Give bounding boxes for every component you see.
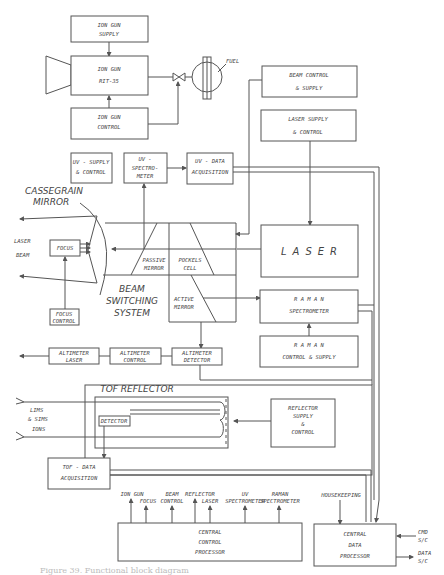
svg-text:CENTRAL: CENTRAL bbox=[198, 529, 221, 535]
ions-label-3: IONS bbox=[32, 426, 46, 432]
ions-label: LIMS bbox=[30, 407, 44, 413]
svg-text:DATA: DATA bbox=[347, 542, 361, 548]
svg-text:BEAM: BEAM bbox=[165, 491, 179, 497]
figure-caption: Figure 39. Functional block diagram bbox=[40, 566, 189, 575]
svg-text:REFLECTOR: REFLECTOR bbox=[185, 491, 215, 497]
svg-text:ACQUISITION: ACQUISITION bbox=[60, 475, 98, 481]
altimeter-laser-box: ALTIMETER LASER bbox=[49, 348, 99, 364]
ion-gun-control-box: ION GUN CONTROL bbox=[71, 108, 148, 139]
svg-text:ALTIMETER: ALTIMETER bbox=[119, 350, 150, 356]
svg-text:CONTROL: CONTROL bbox=[198, 539, 221, 545]
svg-text:SYSTEM: SYSTEM bbox=[114, 308, 150, 318]
svg-text:CONTROL & SUPPLY: CONTROL & SUPPLY bbox=[283, 354, 337, 360]
svg-text:FUEL: FUEL bbox=[226, 58, 239, 64]
ccp-input-labels: ION GUN FOCUS BEAM CONTROL REFLECTOR LAS… bbox=[120, 491, 300, 504]
svg-text:PROCESSOR: PROCESSOR bbox=[340, 553, 370, 559]
fuel-tank-icon: FUEL bbox=[192, 57, 239, 99]
uv-spectrometer-box: UV - SPECTRO- METER bbox=[124, 153, 167, 183]
beam-control-supply-box: BEAM CONTROL & SUPPLY bbox=[262, 66, 357, 97]
svg-text:BEAM: BEAM bbox=[119, 284, 145, 294]
data-sc-label: DATA bbox=[417, 550, 431, 556]
svg-text:REFLECTOR: REFLECTOR bbox=[288, 405, 318, 411]
svg-text:PASSIVE: PASSIVE bbox=[142, 257, 166, 263]
central-control-processor-box: CENTRAL CONTROL PROCESSOR bbox=[118, 523, 302, 561]
svg-text:CONTROL: CONTROL bbox=[291, 429, 314, 435]
svg-text:METER: METER bbox=[136, 173, 154, 179]
laser-beam-label: LASER bbox=[14, 238, 31, 244]
svg-text:CELL: CELL bbox=[183, 265, 196, 271]
svg-text:CONTROL: CONTROL bbox=[123, 357, 146, 363]
svg-text:UV - DATA: UV - DATA bbox=[195, 158, 225, 164]
svg-text:LASER: LASER bbox=[202, 498, 219, 504]
laser-supply-control-box: LASER SUPPLY & CONTROL bbox=[261, 110, 356, 141]
svg-text:&: & bbox=[300, 421, 305, 427]
altimeter-detector-box: ALTIMETER DETECTOR bbox=[172, 348, 222, 365]
detector-box: DETECTOR bbox=[99, 416, 130, 426]
altimeter-control-box: ALTIMETER CONTROL bbox=[110, 348, 161, 364]
ions-label-2: & SIMS bbox=[27, 416, 49, 422]
svg-text:ION GUN: ION GUN bbox=[97, 66, 121, 72]
svg-text:R A M A N: R A M A N bbox=[294, 342, 324, 348]
raman-control-supply-box: R A M A N CONTROL & SUPPLY bbox=[260, 336, 358, 367]
reflector-supply-control-box: REFLECTOR SUPPLY & CONTROL bbox=[271, 399, 335, 447]
svg-text:ACQUISITION: ACQUISITION bbox=[191, 169, 229, 175]
svg-text:SUPPLY: SUPPLY bbox=[99, 31, 120, 37]
svg-text:& SUPPLY: & SUPPLY bbox=[295, 85, 323, 91]
svg-text:CONTROL: CONTROL bbox=[160, 498, 183, 504]
svg-text:ION GUN: ION GUN bbox=[120, 491, 144, 497]
svg-text:ACTIVE: ACTIVE bbox=[173, 296, 195, 302]
raman-spectrometer-box: R A M A N SPECTROMETER bbox=[260, 290, 358, 323]
svg-text:BEAM CONTROL: BEAM CONTROL bbox=[289, 72, 329, 78]
svg-text:UV: UV bbox=[242, 491, 249, 497]
svg-text:CONTROL: CONTROL bbox=[97, 124, 120, 130]
data-sc-label-2: S/C bbox=[418, 558, 429, 564]
laser-box: LASER bbox=[261, 225, 358, 277]
svg-text:SPECTRO-: SPECTRO- bbox=[132, 165, 159, 171]
svg-text:FOCUS: FOCUS bbox=[57, 245, 74, 251]
svg-text:ION GUN: ION GUN bbox=[97, 22, 121, 28]
svg-text:POCKELS: POCKELS bbox=[178, 257, 202, 263]
svg-text:FOCUS: FOCUS bbox=[56, 311, 73, 317]
svg-text:ION GUN: ION GUN bbox=[97, 114, 121, 120]
svg-text:UV - SUPPLY: UV - SUPPLY bbox=[73, 159, 110, 165]
svg-text:CONTROL: CONTROL bbox=[52, 318, 75, 324]
svg-text:CENTRAL: CENTRAL bbox=[343, 531, 366, 537]
laser-beam-label-2: BEAM bbox=[16, 252, 30, 258]
svg-text:R A M A N: R A M A N bbox=[294, 296, 324, 302]
svg-text:MIRROR: MIRROR bbox=[143, 265, 165, 271]
svg-text:SWITCHING: SWITCHING bbox=[106, 296, 158, 306]
svg-text:SUPPLY: SUPPLY bbox=[293, 413, 314, 419]
ion-gun-supply-box: ION GUN SUPPLY bbox=[71, 16, 148, 42]
svg-text:LASER: LASER bbox=[66, 357, 83, 363]
central-data-processor-box: CENTRAL DATA PROCESSOR bbox=[314, 524, 396, 566]
beam-switching-system: PASSIVE MIRROR POCKELS CELL ACTIVE MIRRO… bbox=[103, 184, 236, 322]
svg-text:TOF - DATA: TOF - DATA bbox=[62, 464, 95, 470]
cmd-sc-label-2: S/C bbox=[418, 537, 429, 543]
focus-box: FOCUS bbox=[50, 240, 90, 256]
svg-text:SPECTROMETER: SPECTROMETER bbox=[260, 498, 300, 504]
svg-text:& CONTROL: & CONTROL bbox=[292, 129, 323, 135]
svg-text:FOCUS: FOCUS bbox=[140, 498, 157, 504]
svg-text:RAMAN: RAMAN bbox=[272, 491, 289, 497]
svg-text:MIRROR: MIRROR bbox=[173, 304, 195, 310]
housekeeping-label: HOUSEKEEPING bbox=[320, 492, 361, 498]
svg-text:RIT-35: RIT-35 bbox=[99, 78, 119, 84]
svg-text:DETECTOR: DETECTOR bbox=[183, 357, 211, 363]
tof-data-acquisition-box: TOF - DATA ACQUISITION bbox=[48, 458, 110, 489]
uv-supply-control-box: UV - SUPPLY & CONTROL bbox=[71, 153, 112, 183]
focus-control-box: FOCUS CONTROL bbox=[50, 309, 79, 325]
svg-text:SPECTROMETER: SPECTROMETER bbox=[289, 308, 329, 314]
cassegrain-mirror-label-2: MIRROR bbox=[33, 197, 69, 207]
svg-text:PROCESSOR: PROCESSOR bbox=[195, 549, 225, 555]
fuel-valve-icon bbox=[148, 73, 192, 124]
svg-text:DETECTOR: DETECTOR bbox=[100, 418, 128, 424]
cassegrain-mirror-label: CASSEGRAIN bbox=[25, 186, 83, 196]
svg-text:& CONTROL: & CONTROL bbox=[75, 169, 106, 175]
cmd-sc-label: CMD bbox=[418, 529, 429, 535]
svg-text:ALTIMETER: ALTIMETER bbox=[58, 350, 89, 356]
svg-text:LASER SUPPLY: LASER SUPPLY bbox=[288, 116, 328, 122]
svg-text:UV -: UV - bbox=[138, 156, 151, 162]
block-diagram: ION GUN SUPPLY ION GUN RIT-35 ION GUN CO… bbox=[0, 0, 444, 575]
svg-text:LASER: LASER bbox=[281, 246, 343, 257]
uv-data-acquisition-box: UV - DATA ACQUISITION bbox=[187, 153, 233, 184]
